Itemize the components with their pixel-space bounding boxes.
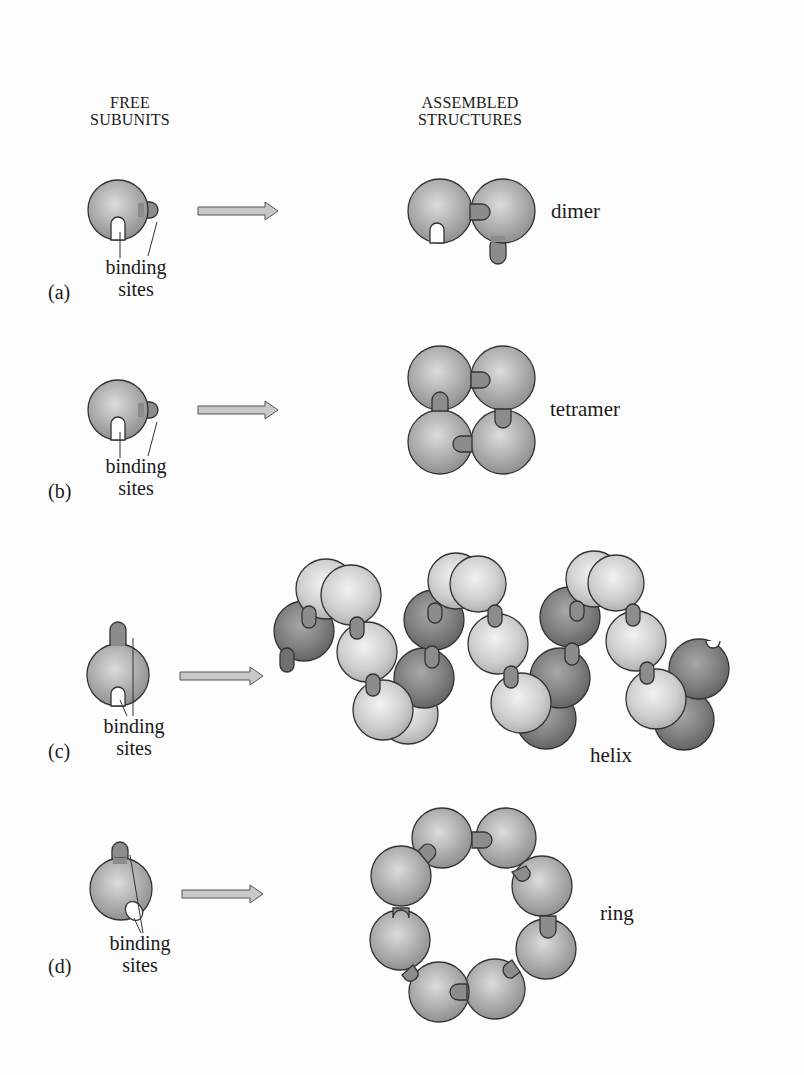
arrow-icon (198, 202, 278, 220)
free-subunit-d (90, 842, 152, 933)
tetramer-structure (408, 346, 535, 474)
arrow-icon (198, 401, 278, 419)
free-subunit-c (87, 622, 149, 716)
free-subunit-a (88, 180, 158, 258)
label-line: sites (100, 954, 180, 976)
label-line: sites (94, 737, 174, 759)
arrow-icon (182, 885, 263, 903)
binding-sites-label-d: binding sites (100, 932, 180, 976)
label-line: sites (96, 278, 176, 300)
structure-label-helix: helix (590, 743, 632, 768)
panel-label-d: (d) (48, 955, 71, 978)
label-line: binding (96, 256, 176, 278)
binding-sites-label-c: binding sites (94, 715, 174, 759)
binding-sites-label-b: binding sites (96, 455, 176, 499)
arrow-icon (180, 667, 263, 685)
panel-label-a: (a) (48, 281, 70, 304)
panel-label-b: (b) (48, 480, 71, 503)
panel-label-c: (c) (48, 740, 70, 763)
label-line: binding (96, 455, 176, 477)
label-line: binding (94, 715, 174, 737)
label-line: binding (100, 932, 180, 954)
self-assembly-diagram (0, 0, 804, 1075)
dimer-structure (408, 179, 535, 264)
label-line: sites (96, 477, 176, 499)
helix-structure (274, 551, 729, 750)
structure-label-tetramer: tetramer (550, 397, 620, 422)
ring-structure (370, 808, 576, 1022)
structure-label-dimer: dimer (551, 199, 600, 224)
structure-label-ring: ring (600, 901, 634, 926)
free-subunit-b (88, 380, 158, 458)
binding-sites-label-a: binding sites (96, 256, 176, 300)
